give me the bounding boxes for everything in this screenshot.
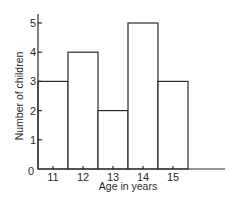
y-tick-label: 5 (30, 17, 36, 29)
bars (38, 23, 188, 169)
x-tick-label: 11 (47, 171, 58, 183)
x-axis-label: Age in years (99, 180, 157, 192)
histogram-bar-15 (158, 81, 188, 169)
histogram-bar-14 (128, 23, 158, 169)
x-tick-label: 15 (167, 171, 179, 183)
y-tick-label: 1 (30, 134, 36, 146)
histogram-bar-13 (98, 111, 128, 169)
y-tick-label: 3 (30, 75, 36, 87)
y-tick-label: 4 (30, 46, 36, 58)
histogram-bar-11 (38, 81, 68, 169)
histogram-bar-12 (68, 52, 98, 169)
histogram-chart: 12345 1112131415 0 Age in years Number o… (0, 0, 242, 204)
x-tick-label: 12 (77, 171, 89, 183)
y-axis-label: Number of children (13, 51, 25, 140)
y-tick-label: 2 (30, 105, 36, 117)
origin-label: 0 (28, 165, 34, 177)
